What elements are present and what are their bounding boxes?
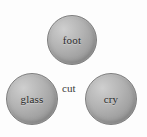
node-glass-label: glass bbox=[21, 94, 44, 105]
node-cry-label: cry bbox=[104, 94, 119, 105]
diagram-canvas: foot glass cry cut bbox=[0, 0, 147, 137]
node-cry[interactable]: cry bbox=[85, 73, 137, 125]
free-label-cut: cut bbox=[62, 83, 75, 94]
node-glass[interactable]: glass bbox=[6, 73, 58, 125]
node-foot[interactable]: foot bbox=[47, 15, 97, 65]
node-foot-label: foot bbox=[63, 35, 82, 46]
